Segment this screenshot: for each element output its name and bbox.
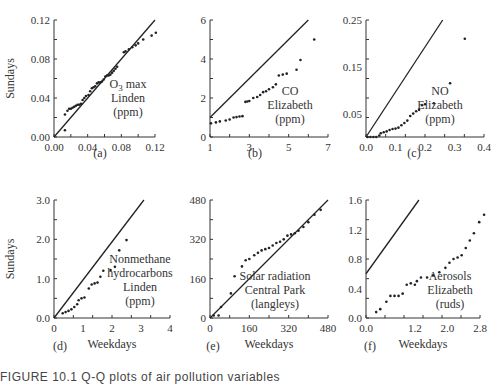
data-point [400,124,403,127]
series-annotation: Aerosols [429,269,472,283]
data-point [244,259,247,262]
data-point [281,73,284,76]
data-point [456,256,459,259]
series-annotation: Nonmethane [109,252,170,266]
data-point [372,136,375,139]
data-point [61,312,64,315]
data-point [241,115,244,118]
data-point [382,131,385,134]
data-point [275,83,278,86]
x-tick-label: 0.3 [448,141,462,153]
series-annotation: Solar radiation [240,269,311,283]
data-point [77,299,80,302]
data-point [391,128,394,131]
data-point [264,248,267,251]
y-tick-label: 0.12 [31,14,50,26]
data-point [241,265,244,268]
series-annotation: hydrocarbons [107,266,173,280]
data-point [265,90,268,93]
data-point [313,38,316,41]
data-point [464,247,467,250]
data-point [99,275,102,278]
y-tick-label: 0.0 [36,312,50,324]
series-annotation: Central Park [245,283,305,297]
data-point [375,311,378,314]
y-tick-label: 1.2 [348,224,362,236]
data-point [414,284,417,287]
reference-line [366,200,419,274]
x-tick-label: 0.0 [359,322,373,334]
data-point [260,249,263,252]
data-point [64,311,67,314]
series-annotation: CO [282,84,299,98]
data-point [64,129,67,132]
x-tick-label: 0 [207,322,213,334]
data-point [102,270,105,273]
y-tick-label: 2 [201,92,207,104]
y-tick-label: 2.0 [36,233,50,245]
data-point [248,100,251,103]
panel-d: 0.01.02.03.001234NonmethanehydrocarbonsL… [3,194,173,353]
data-point [76,303,79,306]
y-tick-label: 0.08 [31,53,51,65]
data-point [87,94,90,97]
data-point [102,78,105,81]
panel-e: 01603204800160320480Solar radiationCentr… [190,194,337,353]
panel-label: (c) [407,146,420,160]
data-point [409,282,412,285]
data-point [125,239,128,242]
y-tick-label: 3.0 [36,194,50,206]
data-point [302,226,305,229]
data-point [313,213,316,216]
y-tick-label: 0.25 [343,14,363,26]
data-point [388,129,391,132]
x-axis-title: Weekdays [87,337,136,351]
series-annotation: (ppm) [113,105,142,119]
data-point [89,90,92,93]
data-point [416,280,419,283]
data-point [88,287,91,290]
y-tick-label: 0 [201,131,207,143]
series-annotation: Elizabeth [427,283,472,297]
data-point [297,229,300,232]
series-annotation: Elizabeth [267,98,312,112]
x-tick-label: 1.2 [408,322,422,334]
x-tick-label: 2 [109,322,115,334]
series-annotation: (ppm) [275,112,304,126]
series-annotation: NO [431,84,449,98]
y-tick-label: 160 [190,273,207,285]
x-tick-label: 0.1 [389,141,403,153]
data-point [393,295,396,298]
y-tick-label: 0.4 [348,283,362,295]
data-point [295,68,298,71]
data-point [96,281,99,284]
x-tick-label: 160 [241,322,258,334]
figure-caption: FIGURE 10.1 Q-Q plots of air pollution v… [0,370,499,384]
data-point [279,240,282,243]
data-point [131,46,134,49]
data-point [379,308,382,311]
x-tick-label: 0.4 [477,141,491,153]
data-point [230,292,233,295]
data-point [409,115,412,118]
x-tick-label: 0 [51,322,57,334]
x-tick-label: 5 [286,141,292,153]
panel-b: 02461357COElizabeth(ppm)(b) [201,14,332,160]
x-tick-label: 480 [320,322,337,334]
data-point [248,258,251,261]
data-point [389,295,392,298]
data-point [150,34,153,37]
series-annotation: (ppm) [125,294,154,308]
x-axis-title: Weekdays [244,337,293,351]
data-point [155,31,158,34]
data-point [397,295,400,298]
data-point [460,254,463,257]
x-tick-label: 4 [167,322,173,334]
data-point [268,247,271,250]
data-point [401,292,404,295]
y-tick-label: 480 [190,194,207,206]
data-point [80,297,83,300]
data-point [210,122,213,125]
panel-a: 0.000.040.080.120.000.040.080.12O3 maxLi… [3,14,165,160]
y-axis-title: Sundays [3,58,17,99]
